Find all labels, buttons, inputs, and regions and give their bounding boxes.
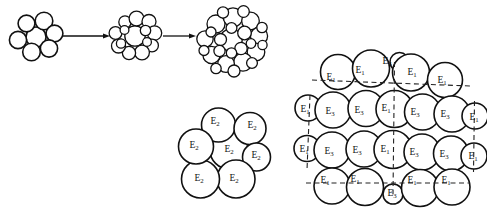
- stage-3-circle-13: [214, 45, 225, 56]
- stage-3-circle-24: [199, 46, 209, 56]
- stage-3-cluster: [197, 6, 268, 77]
- stage-3-circle-16: [206, 27, 216, 37]
- stage-1-circle-1: [18, 15, 35, 32]
- stage-2-circle-11: [140, 25, 150, 35]
- packed-r3c0: [314, 168, 350, 204]
- stage-1-cluster: [9, 12, 63, 61]
- stage-3-circle-19: [257, 22, 267, 32]
- stage-3-circle-20: [258, 40, 267, 49]
- stage-2-circle-12: [120, 26, 129, 35]
- arrow-stage2-to-stage3: [163, 33, 196, 38]
- stage-3-circle-10: [215, 34, 227, 46]
- stage-3-circle-15: [246, 39, 256, 49]
- stage-3-circle-17: [217, 7, 228, 18]
- stage-1-circle-6: [9, 31, 26, 48]
- arrow-2-head: [189, 33, 196, 38]
- arrow-stage1-to-stage2: [63, 33, 110, 38]
- stage-3-circle-22: [247, 58, 258, 69]
- stage-3-circle-14: [226, 23, 237, 34]
- particle-aggregation-figure: E2E2E2E2E2E2E2 E1E1E3E1E1E1E3E3E1E3E3E1E…: [0, 0, 487, 218]
- stage-3-circle-11: [238, 26, 252, 40]
- stage-3-circle-25: [226, 48, 236, 58]
- stage-3-circle-18: [238, 6, 250, 18]
- packed-r3c4: [434, 169, 470, 205]
- stage-3-circle-21: [228, 65, 240, 77]
- stage-2-cluster: [109, 11, 162, 60]
- stage-2-circle-10: [116, 39, 125, 48]
- stage-2-circle-6: [135, 45, 150, 60]
- diagram-canvas: E2E2E2E2E2E2E2 E1E1E3E1E1E1E3E3E1E3E3E1E…: [0, 0, 487, 218]
- stage-1-circle-4: [40, 40, 57, 57]
- stage-2-circle-13: [143, 38, 152, 47]
- stage-3-circle-23: [211, 63, 221, 73]
